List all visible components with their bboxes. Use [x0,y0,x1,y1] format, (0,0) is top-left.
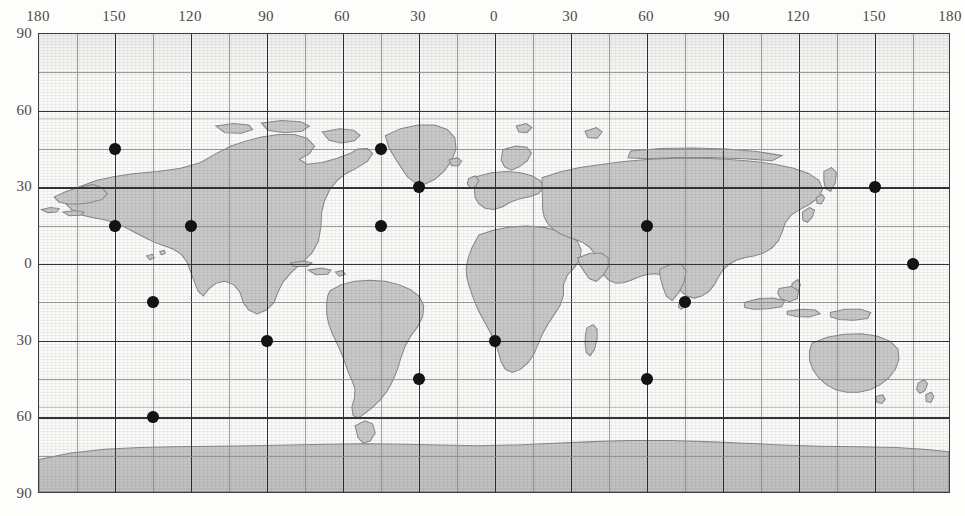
longitude-tick-label: 0 [490,8,498,25]
longitude-tick-label: 90 [258,8,274,25]
latitude-tick-label: 30 [2,178,32,195]
meridian-line [875,34,876,492]
longitude-tick-label: 150 [862,8,885,25]
map-data-point [870,182,881,193]
longitude-tick-label: 180 [938,8,961,25]
map-data-point [376,220,387,231]
world-landmass-shapes [39,34,949,492]
map-data-point [262,335,273,346]
meridian-line [647,34,648,492]
latitude-tick-label: 60 [2,408,32,425]
map-data-point [186,220,197,231]
latitude-tick-label: 60 [2,101,32,118]
map-data-point [376,144,387,155]
meridian-line [77,34,78,492]
meridian-line [723,34,724,492]
meridian-line [381,34,382,492]
parallel-line [39,226,949,227]
meridian-line [837,34,838,492]
map-data-point [908,259,919,270]
parallel-line [39,72,949,73]
meridian-line [533,34,534,492]
meridian-line [685,34,686,492]
parallel-line [39,187,949,188]
meridian-line [495,34,496,492]
meridian-line [115,34,116,492]
map-plot-area [38,33,950,493]
longitude-tick-label: 60 [334,8,350,25]
latitude-tick-label: 30 [2,331,32,348]
longitude-tick-label: 90 [714,8,730,25]
map-data-point [148,412,159,423]
map-data-point [110,144,121,155]
longitude-tick-label: 30 [410,8,426,25]
parallel-line [39,379,949,380]
longitude-tick-label: 150 [102,8,125,25]
map-data-point [414,182,425,193]
meridian-line [799,34,800,492]
latitude-tick-label: 0 [2,255,32,272]
parallel-line [39,264,949,265]
meridian-line [571,34,572,492]
map-data-point [490,335,501,346]
meridian-line [609,34,610,492]
parallel-line [39,417,949,418]
meridian-line [267,34,268,492]
meridian-line [229,34,230,492]
parallel-line [39,302,949,303]
longitude-tick-label: 60 [638,8,654,25]
longitude-tick-label: 30 [562,8,578,25]
longitude-tick-label: 180 [26,8,49,25]
parallel-line [39,456,949,457]
latitude-tick-label: 90 [2,485,32,502]
meridian-line [191,34,192,492]
latitude-tick-label: 90 [2,25,32,42]
longitude-tick-label: 120 [178,8,201,25]
meridian-line [761,34,762,492]
meridian-line [153,34,154,492]
map-data-point [148,297,159,308]
map-data-point [642,374,653,385]
map-data-point [110,220,121,231]
figure-canvas: 1801501209060300306090120150180 90603003… [0,0,965,516]
longitude-tick-label: 120 [786,8,809,25]
meridian-line [419,34,420,492]
parallel-line [39,149,949,150]
meridian-line [305,34,306,492]
map-data-point [680,297,691,308]
map-data-point [642,220,653,231]
map-data-point [414,374,425,385]
parallel-line [39,111,949,112]
meridian-line [457,34,458,492]
meridian-line [343,34,344,492]
